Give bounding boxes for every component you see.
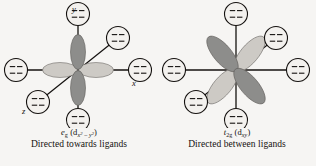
ligand-upper-right [265, 27, 288, 50]
ligand-left [163, 59, 186, 82]
lobe-up [71, 35, 86, 70]
ligand-bottom [67, 109, 90, 129]
t2g-orbital-term: t2g (dxy) [158, 128, 316, 138]
axis-label-z: z [22, 106, 25, 116]
lobe-down [71, 71, 86, 106]
axis-label-y: y [72, 4, 76, 14]
t2g-diagram [158, 0, 316, 128]
ligand-top [67, 3, 90, 26]
ligand-left [5, 59, 28, 82]
ligand-lower-left [185, 91, 208, 114]
ligand-lower-left [27, 91, 50, 114]
crystal-field-orbital-figure: y x z eg (dx2 – y2) Directed towards lig… [0, 0, 316, 166]
lobe-right [79, 63, 114, 78]
axis-label-x: x [132, 78, 136, 88]
ligand-bottom [225, 109, 248, 129]
ligand-right [287, 59, 310, 82]
t2g-panel: t2g (dxy) Directed between ligands [158, 0, 316, 166]
eg-orbital-term: eg (dx2 – y2) [0, 128, 158, 138]
eg-description: Directed towards ligands [0, 139, 158, 150]
eg-caption: eg (dx2 – y2) Directed towards ligands [0, 128, 158, 149]
t2g-caption: t2g (dxy) Directed between ligands [158, 128, 316, 149]
lobe-left [43, 63, 78, 78]
ligand-top [225, 3, 248, 26]
ligand-upper-right [107, 27, 130, 50]
t2g-description: Directed between ligands [158, 139, 316, 150]
eg-panel: y x z eg (dx2 – y2) Directed towards lig… [0, 0, 158, 166]
